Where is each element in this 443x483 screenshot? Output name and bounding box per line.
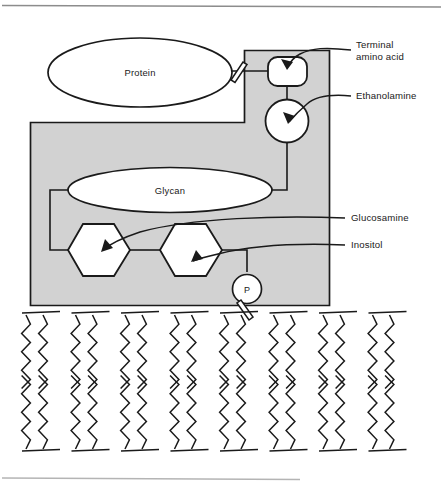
phosphate-label: P [244,285,250,295]
protein-node: Protein [48,38,232,107]
callout-terminal-amino-acid-line2: amino acid [356,51,404,62]
glycan-node: Glycan [68,168,272,213]
phosphate-node: P [233,275,262,304]
diagram-canvas: Protein Glycan P [0,0,443,483]
callout-ethanolamine: Ethanolamine [356,90,416,101]
callout-glucosamine: Glucosamine [351,212,409,223]
gpi-anchor-figure: Protein Glycan P [0,0,443,483]
callout-terminal-amino-acid-line1: Terminal [356,39,393,50]
callout-inositol: Inositol [351,239,383,250]
glycan-label: Glycan [155,185,185,196]
protein-label: Protein [124,67,155,78]
